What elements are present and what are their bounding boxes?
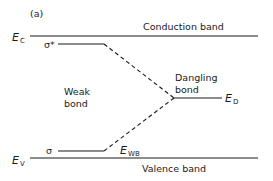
antibonding-dashed-line [104,44,174,98]
dangling-bond-label-line1: Dangling [175,72,218,83]
ed-subscript: D [233,98,238,106]
conduction-band-label: Conduction band [143,21,224,32]
ev-symbol: E [12,154,19,167]
ec-subscript: C [20,37,25,45]
valence-band-label: Valence band [142,163,206,174]
ed-symbol: E [225,92,232,105]
weak-bond-label-line1: Weak [64,86,91,97]
energy-level-diagram: (a) E C Conduction band σ* Weak bond Dan… [0,0,273,181]
ev-subscript: V [20,160,25,168]
bonding-dashed-line [104,98,174,151]
sigma-star-label: σ* [44,39,55,50]
ewb-symbol: E [120,144,127,157]
sigma-label: σ [46,145,52,156]
ewb-subscript: WB [128,150,140,158]
dangling-bond-label-line2: bond [175,84,199,95]
weak-bond-label-line2: bond [64,98,88,109]
ec-symbol: E [12,31,19,44]
panel-label: (a) [30,8,43,19]
